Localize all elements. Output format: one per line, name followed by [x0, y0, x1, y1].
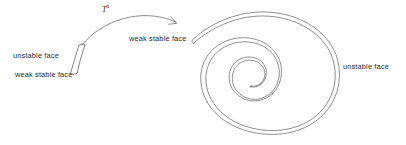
map-symbol-exponent: n: [106, 3, 109, 9]
label-weak-stable-face-left: weak stable face: [15, 71, 72, 78]
label-unstable-face-right: unstable face: [343, 63, 389, 70]
label-unstable-face-left: unstable face: [13, 52, 59, 59]
label-weak-stable-face-middle: weak stable face: [129, 35, 186, 42]
label-map-symbol: Tn: [102, 4, 109, 14]
spiral-strip-icon: [192, 12, 340, 134]
thin-strip-icon: [71, 44, 86, 74]
diagram-canvas: unstable face weak stable face weak stab…: [0, 0, 406, 145]
